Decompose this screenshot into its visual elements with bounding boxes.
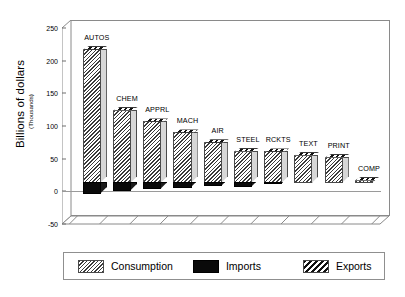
bar-exports-face <box>355 177 380 181</box>
legend-item-exports[interactable]: Exports <box>303 260 372 273</box>
y-tick-mark <box>62 158 66 159</box>
legend-item-imports[interactable]: Imports <box>193 260 261 273</box>
y-tick-mark <box>62 60 66 61</box>
bar-imports-side-face <box>221 182 228 186</box>
bar-label-print: PRINT <box>328 141 350 150</box>
bar-imports-face <box>234 182 252 187</box>
bar-rckts <box>264 182 282 183</box>
bar-imports-face <box>113 182 131 190</box>
y-tick-label: -50 <box>34 221 58 228</box>
y-tick-label: 250 <box>34 25 58 32</box>
bar-side-face <box>160 121 167 183</box>
bar-side-face <box>191 132 198 183</box>
legend-item-consumption[interactable]: Consumption <box>78 260 173 273</box>
bar-chem <box>113 182 131 183</box>
bar-side-face <box>251 151 258 184</box>
y-tick-label: 200 <box>34 57 58 64</box>
legend-swatch-consumption-icon <box>78 260 104 273</box>
bar-consumption-face <box>325 157 343 184</box>
legend-label: Exports <box>336 260 372 272</box>
y-tick-label: 150 <box>34 90 58 97</box>
bar-imports-face <box>264 182 282 184</box>
legend-swatch-exports-icon <box>303 260 329 273</box>
y-tick-mark <box>62 93 66 94</box>
bar-label-mach: MACH <box>177 116 199 125</box>
legend-label: Consumption <box>111 260 173 272</box>
y-tick-label: 0 <box>34 188 58 195</box>
bar-label-rckts: RCKTS <box>266 135 291 144</box>
y-axis-subtitle-group: (Thousands) <box>22 60 38 170</box>
y-tick-mark <box>62 126 66 127</box>
bar-label-air: AIR <box>212 126 224 135</box>
bars-container: AUTOSCHEMAPPRLMACHAIRSTEELRCKTSTEXTPRINT… <box>70 20 389 216</box>
plot-floor <box>62 215 390 224</box>
bar-apprl <box>143 182 161 183</box>
bar-imports-side-face <box>281 182 288 184</box>
y-tick-mark <box>62 28 66 29</box>
bar-text <box>294 182 312 183</box>
bar-comp <box>355 182 373 183</box>
legend: ConsumptionImportsExports <box>63 252 385 280</box>
y-tick-mark <box>62 224 66 225</box>
y-axis-subtitle: (Thousands) <box>27 62 34 162</box>
bar-side-face <box>281 151 288 183</box>
bar-side-face <box>342 157 349 184</box>
bar-consumption-face <box>83 49 101 183</box>
bar-imports-side-face <box>251 182 258 187</box>
bar-imports-side-face <box>160 182 167 189</box>
bar-imports-side-face <box>100 182 107 194</box>
bar-label-steel: STEEL <box>236 135 259 144</box>
bar-print <box>325 182 343 183</box>
bar-mach <box>173 182 191 183</box>
bar-label-text: TEXT <box>299 139 318 148</box>
legend-label: Imports <box>226 260 261 272</box>
bar-side-face <box>221 142 228 183</box>
bar-consumption-face <box>173 132 191 183</box>
bar-label-comp: COMP <box>358 164 380 173</box>
bar-side-face <box>100 49 107 183</box>
legend-swatch-imports-icon <box>193 260 219 273</box>
bar-consumption-face <box>204 142 222 183</box>
bar-consumption-face <box>143 121 161 183</box>
y-tick-label: 50 <box>34 155 58 162</box>
bar-imports-face <box>83 182 101 194</box>
bar-imports-face <box>204 182 222 186</box>
plot-frame: 250200150100500-50 AUTOSCHEMAPPRLMACHAIR… <box>62 20 390 224</box>
bar-side-face <box>311 155 318 184</box>
bar-chart: Billions of dollars (Thousands) 25020015… <box>0 0 405 297</box>
bar-label-chem: CHEM <box>116 94 138 103</box>
y-tick-label: 100 <box>34 123 58 130</box>
bar-imports-face <box>173 182 191 187</box>
bar-imports-side-face <box>130 182 137 190</box>
bar-consumption-face <box>234 151 252 184</box>
bar-imports-side-face <box>191 182 198 187</box>
bar-air <box>204 182 222 183</box>
bar-label-autos: AUTOS <box>84 33 109 42</box>
bar-imports-face <box>143 182 161 189</box>
bar-label-apprl: APPRL <box>145 105 169 114</box>
bar-consumption-face <box>294 155 312 184</box>
bar-consumption-face <box>113 110 131 184</box>
bar-side-face <box>130 110 137 184</box>
bar-consumption-face <box>264 151 282 183</box>
bar-steel <box>234 182 252 183</box>
bar-autos <box>83 182 101 183</box>
